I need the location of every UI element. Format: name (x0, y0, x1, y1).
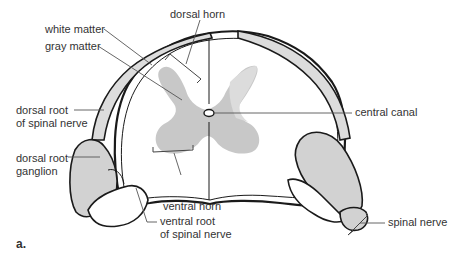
label-dorsal-root-line2: of spinal nerve (16, 117, 88, 130)
label-ganglion-line2: ganglion (16, 165, 58, 178)
label-ganglion-line1: dorsal root (16, 152, 68, 165)
label-central-canal: central canal (355, 106, 417, 119)
panel-label: a. (16, 238, 26, 251)
label-white-matter: white matter (45, 23, 105, 36)
label-ventral-root-line1: ventral root (160, 215, 215, 228)
label-spinal-nerve: spinal nerve (388, 216, 447, 229)
label-gray-matter: gray matter (45, 40, 101, 53)
central-canal (204, 110, 214, 117)
label-ventral-horn: ventral horn (163, 200, 221, 213)
label-ventral-root-line2: of spinal nerve (160, 228, 232, 241)
label-dorsal-horn: dorsal horn (170, 8, 225, 21)
label-dorsal-root-line1: dorsal root (16, 104, 68, 117)
